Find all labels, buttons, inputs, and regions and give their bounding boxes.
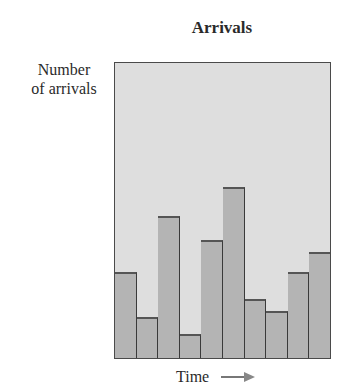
y-axis-label-line-1: Number	[14, 60, 114, 79]
bar	[223, 187, 245, 358]
bar	[245, 299, 267, 358]
bar-series	[115, 63, 330, 358]
y-axis-label-line-2: of arrivals	[14, 79, 114, 98]
bar	[266, 311, 288, 358]
y-axis-label: Number of arrivals	[14, 60, 114, 98]
bar	[288, 272, 310, 358]
bar	[137, 317, 159, 358]
chart-title: Arrivals	[114, 18, 330, 38]
x-axis-label: Time	[176, 368, 255, 386]
bar	[158, 216, 180, 358]
right-arrow-icon	[221, 372, 255, 382]
x-axis-label-text: Time	[176, 368, 209, 386]
bar	[115, 272, 137, 358]
plot-area	[114, 62, 331, 359]
bar	[309, 252, 330, 358]
bar	[201, 240, 223, 358]
bar	[180, 334, 202, 358]
